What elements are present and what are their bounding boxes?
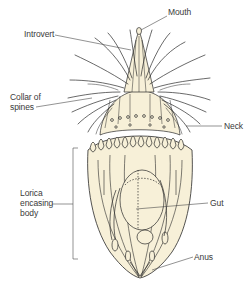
label-gut: Gut: [210, 198, 223, 208]
label-collar-line1: Collar of: [10, 92, 41, 102]
label-lorica-line3: body: [20, 208, 38, 218]
lorica-bracket: [73, 148, 78, 259]
loriciferan-diagram: Mouth Introvert Collar of spines Neck Lo…: [0, 0, 251, 281]
neck-region: [100, 90, 180, 135]
introvert-leader: [55, 35, 131, 50]
collar-leader: [36, 98, 92, 107]
label-introvert: Introvert: [24, 29, 54, 39]
gut-organ: [120, 170, 164, 230]
mouth-tip: [137, 28, 142, 35]
label-mouth: Mouth: [168, 7, 191, 17]
label-neck: Neck: [224, 121, 243, 131]
label-collar-line2: spines: [10, 102, 34, 112]
label-lorica-line2: encasing: [20, 198, 53, 208]
label-lorica-line1: Lorica: [20, 188, 43, 198]
label-anus: Anus: [194, 252, 213, 262]
organism-illustration: [0, 0, 251, 281]
mouth-leader: [141, 16, 167, 30]
